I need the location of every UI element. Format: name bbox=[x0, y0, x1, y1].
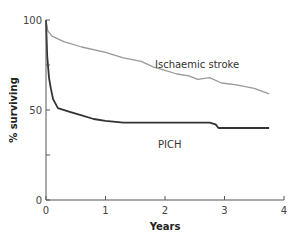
y-axis-title: % surviving bbox=[8, 77, 19, 143]
series-label-pich: PICH bbox=[158, 139, 181, 150]
series-line-ischaemic-stroke bbox=[46, 20, 269, 94]
x-tick-label: 4 bbox=[281, 205, 287, 216]
y-tick-label: 0 bbox=[36, 195, 42, 206]
x-tick-label: 0 bbox=[43, 205, 49, 216]
series-line-pich bbox=[46, 20, 269, 128]
y-tick-label: 50 bbox=[29, 105, 42, 116]
x-tick-label: 3 bbox=[221, 205, 227, 216]
y-tick-label: 100 bbox=[23, 15, 42, 26]
x-tick-label: 2 bbox=[162, 205, 168, 216]
x-ticks: 01234 bbox=[43, 196, 287, 216]
series-label-ischaemic: Ischaemic stroke bbox=[155, 59, 239, 70]
x-tick-label: 1 bbox=[102, 205, 108, 216]
x-axis-title: Years bbox=[149, 221, 181, 232]
plot-area bbox=[46, 20, 269, 128]
survival-chart: 050100 01234 Years % surviving Ischaemic… bbox=[0, 0, 295, 241]
